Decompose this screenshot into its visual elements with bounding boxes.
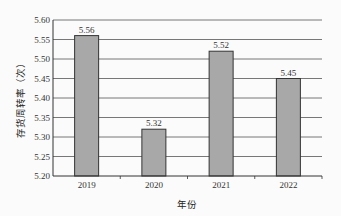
data-label: 5.32 <box>146 118 162 128</box>
bar-2020 <box>142 129 166 176</box>
x-axis-label: 年份 <box>177 199 197 210</box>
y-tick-label: 5.45 <box>34 74 50 84</box>
y-tick-label: 5.40 <box>34 93 50 103</box>
bar-2022 <box>276 79 300 177</box>
x-tick-label: 2019 <box>78 180 97 190</box>
x-axis-ticks: 2019202020212022 <box>78 176 322 190</box>
y-tick-label: 5.55 <box>34 35 50 45</box>
data-label: 5.52 <box>213 40 229 50</box>
x-tick-label: 2020 <box>145 180 164 190</box>
y-tick-label: 5.60 <box>34 15 50 25</box>
x-tick-label: 2021 <box>212 180 230 190</box>
y-tick-label: 5.30 <box>34 132 50 142</box>
y-tick-label: 5.25 <box>34 152 50 162</box>
y-tick-label: 5.50 <box>34 54 50 64</box>
bar-2021 <box>209 51 233 176</box>
bar-2019 <box>75 36 99 176</box>
y-axis-label: 存货周转率（次） <box>15 58 26 138</box>
y-tick-label: 5.20 <box>34 171 50 181</box>
data-label: 5.56 <box>79 25 95 35</box>
bars: 5.565.325.525.45 <box>75 25 301 176</box>
y-tick-label: 5.35 <box>34 113 50 123</box>
bar-chart: 5.205.255.305.355.405.455.505.555.60 5.5… <box>0 0 341 216</box>
y-axis-ticks: 5.205.255.305.355.405.455.505.555.60 <box>34 15 50 181</box>
data-label: 5.45 <box>281 68 297 78</box>
x-tick-label: 2022 <box>279 180 297 190</box>
